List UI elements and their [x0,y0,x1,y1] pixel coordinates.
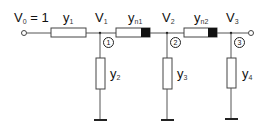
series-admittance-yn1 [116,28,150,37]
node-number-2: 2 [170,37,181,48]
series-admittance-yn2 [184,28,217,37]
node-voltage-label-v3: V3 [226,11,239,28]
label-sub: 3 [235,18,239,25]
shunt-label-y2: y2 [110,67,120,84]
label-sub: 1 [104,18,108,25]
label-sub: 2 [117,74,121,81]
label-sub: 2 [171,18,175,25]
node-voltage-label-v1: V1 [95,11,108,28]
label-main: V [162,10,171,25]
node-number-1: 1 [103,37,114,48]
shunt-label-y3: y3 [177,67,187,84]
input-terminal-icon [22,31,27,36]
label-main: V [14,10,23,25]
label-sub: n2 [201,18,209,25]
node-number-3: 3 [234,37,245,48]
series-admittance-y1 [51,28,86,37]
series-label-yn1: yn1 [128,11,142,28]
series-label-yn2: yn2 [194,11,208,28]
node-voltage-label-v2: V2 [162,11,175,28]
label-sub: 3 [184,74,188,81]
label-main: V [95,10,104,25]
series-label-y1: y1 [63,11,73,28]
shunt-label-y4: y4 [242,67,252,84]
output-terminal-icon [249,31,254,36]
source-voltage-label: V0 = 1 [14,11,49,28]
label-main: V [226,10,235,25]
label-suffix: = 1 [27,10,49,25]
label-sub: 4 [249,74,253,81]
label-sub: 1 [70,18,74,25]
label-sub: n1 [135,18,143,25]
